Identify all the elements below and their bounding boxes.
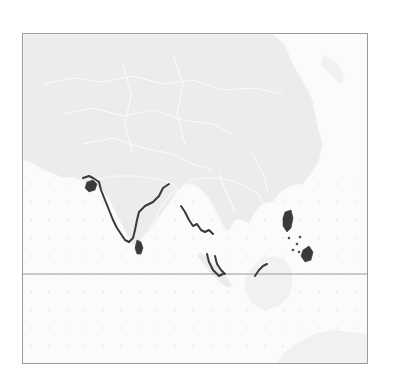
gujarat-coast-highlight [85,180,97,192]
sri-lanka-highlight [135,240,143,254]
myanmar-coast [181,206,213,234]
australia-landmass [275,330,368,364]
borneo-landmass [245,256,293,310]
luzon-highlight [283,210,293,232]
asia-landmass [23,34,323,244]
visayas-islands [288,236,301,253]
mindanao-highlight [301,246,313,262]
map-frame [22,33,368,364]
map-canvas[interactable] [23,34,368,364]
japan-landmass [321,54,345,84]
